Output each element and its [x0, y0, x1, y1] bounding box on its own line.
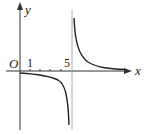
tick-label-1: 1: [27, 56, 33, 70]
x-axis-label: x: [134, 63, 141, 78]
function-graph: O 1 5 y x: [0, 0, 150, 135]
y-axis-label: y: [23, 2, 31, 17]
origin-label: O: [9, 56, 19, 71]
right-branch-curve: [74, 18, 125, 70]
x-axis-arrow-icon: [124, 68, 132, 74]
left-branch-curve: [20, 73, 69, 125]
tick-label-5: 5: [64, 56, 70, 70]
y-axis-arrow-icon: [17, 2, 23, 10]
